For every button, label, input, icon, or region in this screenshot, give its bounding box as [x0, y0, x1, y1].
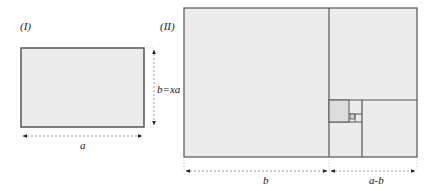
width-label: a: [80, 139, 86, 151]
panel-right-label: (II): [160, 20, 175, 33]
panel-left: (I) b=xa a: [20, 20, 181, 151]
height-label: b=xa: [157, 83, 181, 95]
small-square-2: [350, 114, 355, 119]
panel-left-label: (I): [20, 20, 31, 33]
dimension-a-minus-b-label: a-b: [369, 174, 384, 186]
outer-rectangle: [184, 8, 417, 157]
golden-rectangle-diagram: (I) b=xa a (II) b a-b: [0, 0, 437, 191]
panel-right: (II) b a-b: [160, 8, 417, 186]
small-square-1: [329, 100, 349, 122]
dimension-b-label: b: [263, 174, 269, 186]
rectangle-a-by-b: [21, 48, 144, 127]
